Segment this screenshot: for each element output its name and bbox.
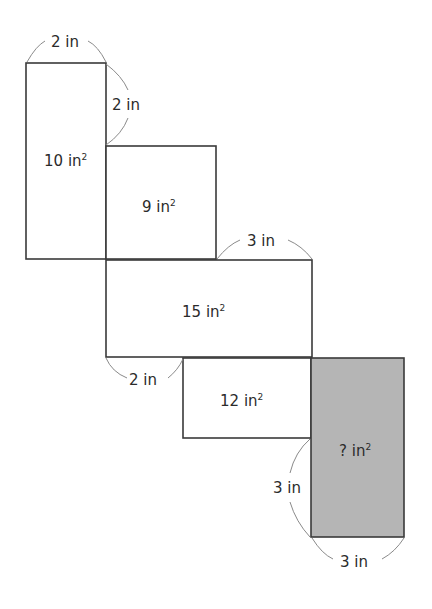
area-label-r1: 10 in2 [44,152,87,170]
arc-d4-left [106,358,127,378]
arc-d2-bottom [106,118,128,145]
dim-label-d3: 3 in [247,232,275,250]
dim-label-d5: 3 in [273,479,301,497]
dim-label-d2: 2 in [112,96,140,114]
arc-d3-right [288,240,312,259]
arc-d6-left [312,538,333,559]
arc-d6-right [382,538,404,559]
arc-d3-left [217,240,240,259]
dim-label-d6: 3 in [340,553,368,571]
arc-d1-right [88,41,106,62]
arc-d4-right [168,359,183,378]
area-label-r4: 12 in2 [220,392,263,410]
arc-d5-bottom [290,502,310,537]
arc-d1-left [27,41,45,62]
area-diagram: 10 in2 9 in2 15 in2 12 in2 ? in2 2 in 2 … [0,0,432,609]
arc-d2-top [106,64,128,90]
arc-d5-top [290,439,310,473]
dim-label-d1: 2 in [51,33,79,51]
dim-label-d4: 2 in [129,371,157,389]
area-label-r3: 15 in2 [182,303,225,321]
